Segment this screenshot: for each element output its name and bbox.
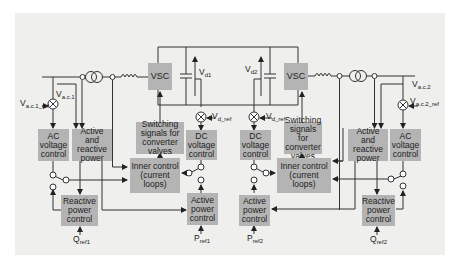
vac1-label: Va.c.1	[56, 89, 75, 102]
ac-voltage-control-2: AC voltage control	[390, 129, 421, 161]
pref2-label: Pref2	[247, 233, 263, 246]
dc-voltage-control-1-label: DC voltage control	[187, 132, 216, 159]
active-power-control-1-label: Active power control	[188, 196, 217, 223]
active-reactive-power-2-label: Active and reactive power	[349, 127, 387, 163]
ac-bus-1	[42, 72, 148, 83]
switching-signals-2-label: Switching signals for converter valves	[285, 116, 321, 161]
vd1-label: Vd1	[199, 67, 211, 80]
inner-control-2-label: Inner control (current loops)	[278, 162, 330, 189]
qref2-label: Qref2	[370, 234, 387, 247]
pref1-label: Pref1	[194, 233, 210, 246]
inner-control-2: Inner control (current loops)	[277, 158, 331, 193]
switching-signals-2: Switching signals for converter valves	[284, 122, 322, 154]
active-reactive-power-2: Active and reactive power	[348, 129, 388, 161]
vsc1-label: VSC	[151, 72, 170, 81]
vac1-ref-label: Va.c.1_ref	[20, 98, 49, 111]
active-power-control-2-label: Active power control	[240, 197, 269, 224]
reactive-power-control-2: Reactive power control	[362, 195, 395, 226]
qref1-label: Qref1	[73, 234, 90, 247]
active-reactive-power-1: Active and reactive power	[72, 129, 112, 161]
ac-voltage-control-1-label: AC voltage control	[39, 132, 68, 159]
inner-control-1-label: Inner control (current loops)	[131, 162, 179, 189]
vdref1-label: Vd_ref	[212, 111, 231, 124]
ac-voltage-control-1: AC voltage control	[38, 129, 69, 161]
dc-voltage-control-1: DC voltage control	[186, 130, 217, 160]
vsc2-block: VSC	[284, 63, 308, 90]
switching-signals-1: Switching signals for converter valves	[136, 122, 184, 154]
vsc1-block: VSC	[148, 63, 172, 90]
vac2-label: Va.c.2	[412, 79, 431, 92]
switching-signals-1-label: Switching signals for converter valves	[137, 120, 183, 156]
reactive-power-control-1: Reactive power control	[61, 195, 98, 226]
vdref2-label: Vd_ref	[266, 111, 285, 124]
dc-voltage-control-2: DC voltage control	[240, 130, 271, 160]
ac-voltage-control-2-label: AC voltage control	[391, 132, 420, 159]
dc-voltage-control-2-label: DC voltage control	[241, 132, 270, 159]
active-reactive-power-1-label: Active and reactive power	[73, 127, 111, 163]
inner-control-1: Inner control (current loops)	[130, 158, 180, 193]
active-power-control-2: Active power control	[239, 195, 270, 226]
active-power-control-1: Active power control	[187, 193, 218, 225]
reactive-power-control-2-label: Reactive power control	[362, 197, 395, 224]
vd2-label: Vd2	[245, 64, 257, 77]
vac2-ref-label: Va.c.2_ref	[410, 96, 439, 109]
reactive-power-control-1-label: Reactive power control	[62, 197, 97, 224]
vsc2-label: VSC	[287, 72, 306, 81]
